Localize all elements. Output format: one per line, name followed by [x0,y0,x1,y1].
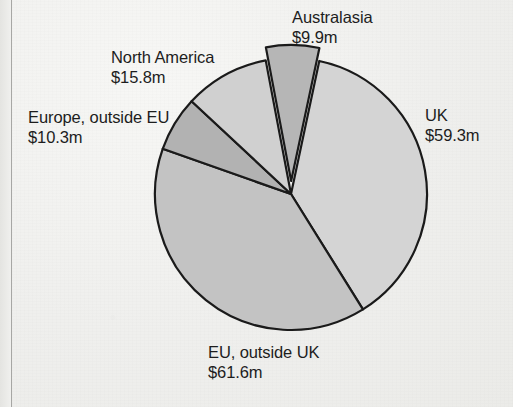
slice-label-europe-outside-eu: Europe, outside EU $10.3m [28,108,169,147]
slice-label-north-america-name: North America [111,48,214,66]
slice-label-north-america-value: $15.8m [111,68,214,88]
slice-label-europe-outside-eu-name: Europe, outside EU [28,108,169,126]
slice-label-australasia-value: $9.9m [292,28,373,48]
slice-label-eu-outside-uk: EU, outside UK $61.6m [208,343,319,382]
page-background: Australasia $9.9m North America $15.8m E… [0,0,513,407]
slice-label-north-america: North America $15.8m [111,48,214,87]
slice-label-uk: UK $59.3m [425,106,479,145]
slice-label-australasia-name: Australasia [292,8,373,26]
slice-label-uk-name: UK [425,106,448,124]
pie-slices [155,45,427,330]
slice-label-eu-outside-uk-name: EU, outside UK [208,343,319,361]
slice-label-uk-value: $59.3m [425,126,479,146]
slice-label-europe-outside-eu-value: $10.3m [28,128,169,148]
slice-label-australasia: Australasia $9.9m [292,8,373,47]
slice-label-eu-outside-uk-value: $61.6m [208,363,319,383]
